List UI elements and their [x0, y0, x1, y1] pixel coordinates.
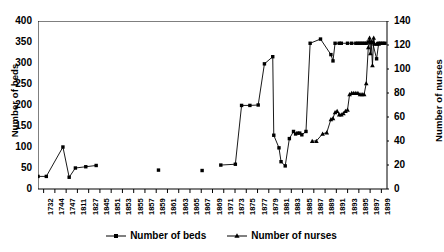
- y-axis-right-tick-label: 80: [394, 88, 424, 98]
- data-point-marker: [324, 130, 329, 134]
- legend-label-beds: Number of beds: [130, 231, 206, 241]
- y-axis-left-tick-label: 250: [2, 79, 32, 89]
- series-line: [38, 147, 96, 177]
- data-point-marker: [74, 166, 77, 169]
- legend-label-nurses: Number of nurses: [251, 231, 337, 241]
- y-axis-right-tick-label: 40: [394, 136, 424, 146]
- data-point-marker: [333, 42, 336, 45]
- data-point-marker: [67, 176, 70, 179]
- y-axis-right-title: Number of nurses: [433, 41, 444, 161]
- y-axis-left-tick-label: 50: [2, 163, 32, 173]
- y-axis-right-tick-label: 60: [394, 112, 424, 122]
- y-axis-right-tick-label: 20: [394, 160, 424, 170]
- data-point-marker: [248, 104, 251, 107]
- data-point-marker: [288, 137, 291, 140]
- data-point-marker: [277, 146, 280, 149]
- legend-key-beds-icon: [105, 231, 127, 241]
- plot-svg: [38, 21, 389, 219]
- legend-key-nurses-icon: [226, 231, 248, 241]
- data-point-marker: [263, 62, 266, 65]
- data-point-marker: [234, 163, 237, 166]
- series-line: [312, 38, 378, 141]
- y-axis-left-tick-label: 300: [2, 58, 32, 68]
- series-line: [221, 39, 385, 166]
- data-point-marker: [45, 175, 48, 178]
- y-axis-right-tick-label: 140: [394, 16, 424, 26]
- y-axis-left-tick-label: 150: [2, 121, 32, 131]
- data-point-marker: [375, 57, 378, 60]
- y-axis-left-tick-label: 0: [2, 184, 32, 194]
- data-point-marker: [329, 53, 332, 56]
- data-point-marker: [284, 164, 287, 167]
- data-point-marker: [272, 134, 275, 137]
- data-point-marker: [38, 175, 40, 178]
- data-point-marker: [300, 133, 303, 136]
- y-axis-left-tick-label: 350: [2, 37, 32, 47]
- data-point-marker: [370, 63, 375, 67]
- data-point-marker: [240, 104, 243, 107]
- legend-item-beds[interactable]: Number of beds: [105, 231, 206, 241]
- chart-legend: Number of beds Number of nurses: [0, 231, 442, 241]
- data-point-marker: [308, 42, 311, 45]
- data-point-marker: [331, 59, 334, 62]
- y-axis-right-tick-label: 0: [394, 184, 424, 194]
- data-point-marker: [271, 55, 274, 58]
- data-point-marker: [219, 163, 222, 166]
- y-axis-left-tick-label: 400: [2, 16, 32, 26]
- data-point-marker: [364, 81, 369, 85]
- data-point-marker: [319, 37, 322, 40]
- y-axis-right-tick-label: 100: [394, 64, 424, 74]
- data-point-marker: [94, 164, 97, 167]
- plot-area: [38, 21, 387, 189]
- data-point-marker: [340, 42, 343, 45]
- y-axis-left-tick-label: 200: [2, 100, 32, 110]
- data-point-marker: [279, 160, 282, 163]
- data-point-marker: [346, 42, 349, 45]
- legend-item-nurses[interactable]: Number of nurses: [226, 231, 337, 241]
- data-point-marker: [61, 145, 64, 148]
- data-point-marker: [200, 169, 203, 172]
- y-axis-right-tick-label: 120: [394, 40, 424, 50]
- data-point-marker: [371, 36, 376, 40]
- data-point-marker: [304, 130, 307, 133]
- data-point-marker: [257, 103, 260, 106]
- y-axis-left-tick-label: 100: [2, 142, 32, 152]
- data-point-marker: [350, 42, 353, 45]
- data-point-marker: [383, 42, 386, 45]
- data-point-marker: [157, 168, 160, 171]
- data-point-marker: [84, 165, 87, 168]
- data-point-marker: [367, 36, 372, 40]
